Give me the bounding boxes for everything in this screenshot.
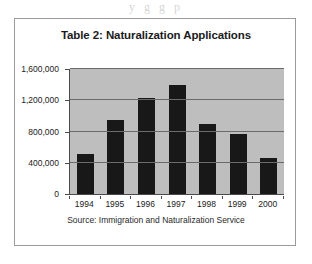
x-tick-label: 2000: [258, 199, 277, 209]
x-tick-mark: [130, 196, 131, 199]
y-tick-label: 400,000: [28, 158, 59, 168]
x-tick-label: 1996: [136, 199, 155, 209]
x-tick-label: 1994: [75, 199, 94, 209]
plot-area: [69, 69, 284, 195]
x-axis: 1994199519961997199819992000: [69, 196, 284, 210]
gridline: [70, 162, 284, 163]
x-tick-mark: [161, 196, 162, 199]
x-tick-label: 1999: [228, 199, 247, 209]
x-tick-mark: [283, 196, 284, 199]
bar: [199, 124, 216, 194]
scan-artifact-text: y g g p: [0, 0, 312, 16]
gridline: [70, 68, 284, 69]
y-tick-label: 1,600,000: [21, 64, 59, 74]
bar-series: [70, 69, 284, 194]
bar: [77, 154, 94, 194]
bar: [138, 98, 155, 194]
page-title: Table 2: Naturalization Applications: [15, 29, 297, 41]
source-note: Source: Immigration and Naturalization S…: [15, 215, 297, 225]
figure-container: Table 2: Naturalization Applications 040…: [14, 18, 296, 246]
bar: [260, 158, 277, 194]
bar: [230, 134, 247, 194]
bar: [169, 85, 186, 194]
y-tick-label: 800,000: [28, 127, 59, 137]
x-tick-mark: [252, 196, 253, 199]
x-tick-label: 1997: [167, 199, 186, 209]
gridline: [70, 99, 284, 100]
x-tick-mark: [100, 196, 101, 199]
gridline: [70, 131, 284, 132]
x-tick-mark: [222, 196, 223, 199]
x-tick-label: 1995: [105, 199, 124, 209]
x-tick-mark: [191, 196, 192, 199]
x-tick-label: 1998: [197, 199, 216, 209]
y-axis: 0400,000800,0001,200,0001,600,000: [15, 69, 65, 194]
y-tick-label: 1,200,000: [21, 95, 59, 105]
y-tick-label: 0: [54, 189, 59, 199]
x-tick-mark: [69, 196, 70, 199]
